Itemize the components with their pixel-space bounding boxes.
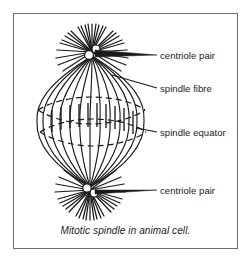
label-spindle-equator: spindle equator <box>160 127 226 138</box>
leader-line-spindle-equator <box>136 128 157 132</box>
label-centriole-pair-bottom: centriole pair <box>160 185 215 196</box>
leader-line-centriole-top <box>95 50 157 57</box>
leader-line-spindle-fibre <box>112 75 157 88</box>
leader-line-centriole-bottom <box>95 190 157 194</box>
label-centriole-pair-top: centriole pair <box>160 50 215 61</box>
spindle-fibres <box>37 56 144 187</box>
figure-caption: Mitotic spindle in animal cell. <box>13 225 238 236</box>
spindle-equator-zone <box>38 97 146 146</box>
label-spindle-fibre: spindle fibre <box>160 83 212 94</box>
figure-root: centriole pair spindle fibre spindle equ… <box>0 0 252 265</box>
